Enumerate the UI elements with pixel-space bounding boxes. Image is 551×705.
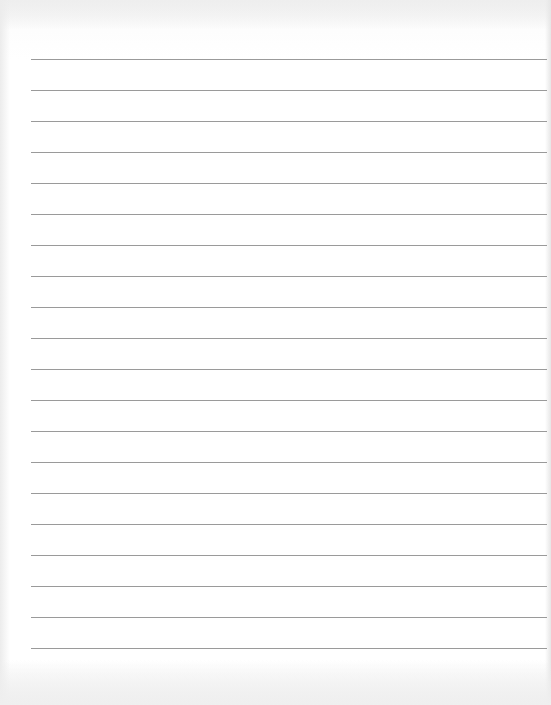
scan-shadow-bottom — [0, 660, 551, 705]
ruled-line — [31, 462, 547, 463]
ruled-line — [31, 214, 547, 215]
ruled-line — [31, 152, 547, 153]
lined-paper-page — [0, 0, 551, 705]
scan-shadow-top — [0, 0, 551, 30]
scan-shadow-right — [545, 0, 551, 705]
ruled-line — [31, 183, 547, 184]
ruled-line — [31, 369, 547, 370]
ruled-line — [31, 431, 547, 432]
ruled-line — [31, 276, 547, 277]
ruled-line — [31, 648, 547, 649]
ruled-line — [31, 245, 547, 246]
ruled-line — [31, 617, 547, 618]
ruled-line — [31, 493, 547, 494]
ruled-line — [31, 59, 547, 60]
ruled-line — [31, 586, 547, 587]
scan-shadow-left — [0, 0, 10, 705]
ruled-line — [31, 400, 547, 401]
ruled-line — [31, 307, 547, 308]
ruled-line — [31, 90, 547, 91]
ruled-line — [31, 338, 547, 339]
ruled-line — [31, 524, 547, 525]
ruled-line — [31, 555, 547, 556]
ruled-line — [31, 121, 547, 122]
